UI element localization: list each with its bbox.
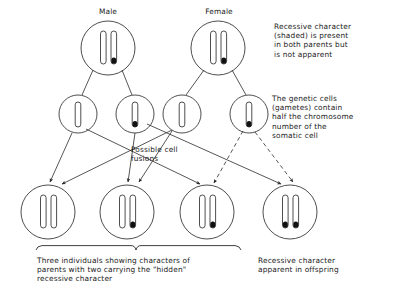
gamete-male-dominant-cell [59, 95, 97, 133]
chromosome-unshaded [120, 195, 126, 228]
chromosome-shaded-tip [221, 58, 226, 64]
offspring-4-cell [263, 185, 317, 239]
chromosome-shaded-tip [210, 222, 215, 228]
parent-gamete-connectors [82, 70, 246, 95]
connector-male-to-gamete1 [82, 70, 93, 95]
offspring-brace [36, 246, 241, 250]
chromosome-shaded-tip [111, 58, 116, 64]
caption-three-individuals: Three individuals showing characters of … [37, 256, 257, 284]
chromosome-shaded-tip [247, 121, 252, 127]
connector-female-to-gamete4 [232, 70, 246, 95]
genetics-inheritance-diagram: Male Female Recessive character (shaded)… [0, 0, 395, 297]
offspring-1-cell [21, 185, 75, 239]
chromosome-shaded-tip [293, 222, 298, 228]
male-parent-cell [81, 21, 135, 75]
offspring-2-cell [100, 185, 154, 239]
fusion-arrow-g4-o3 [214, 131, 243, 183]
gamete-female-dominant-cell [163, 95, 201, 133]
gametes-note: The genetic cells (gametes) contain half… [272, 94, 392, 140]
chromosome-shaded-tip [130, 222, 135, 228]
male-parent-label: Male [82, 7, 134, 16]
chromosome-unshaded [75, 102, 81, 127]
chromosome-unshaded [179, 102, 185, 127]
offspring-3-cell [180, 185, 234, 239]
chromosome-unshaded [211, 31, 217, 64]
chromosome-unshaded [101, 31, 107, 64]
chromosome-unshaded [51, 195, 57, 228]
connector-female-to-gamete3 [186, 70, 204, 95]
chromosome-shaded-tip [283, 222, 288, 228]
connector-male-to-gamete2 [122, 70, 132, 95]
female-parent-label: Female [190, 7, 248, 16]
chromosome-unshaded [41, 195, 47, 228]
fusion-arrow-g1-o1 [50, 133, 72, 182]
possible-cell-fusions-label: Possible cell fusions [131, 145, 211, 163]
caption-recessive-apparent: Recessive character apparent in offsprin… [258, 256, 388, 274]
chromosome-shaded-tip [133, 121, 138, 127]
female-parent-cell [191, 21, 245, 75]
gamete-male-recessive-cell [116, 95, 154, 133]
gamete-female-recessive-cell [230, 95, 268, 133]
recessive-parents-note: Recessive character (shaded) is present … [274, 22, 392, 59]
chromosome-unshaded [200, 195, 206, 228]
